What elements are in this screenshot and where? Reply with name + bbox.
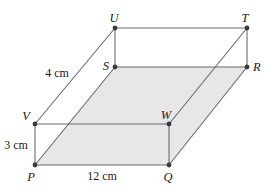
vertex-label-s: S <box>103 59 110 73</box>
vertex-dot-s <box>113 65 118 70</box>
length-label-12cm: 12 cm <box>87 169 117 183</box>
vertex-label-u: U <box>109 11 119 25</box>
slant-label-4cm: 4 cm <box>45 66 69 80</box>
vertex-label-q: Q <box>163 170 172 184</box>
vertex-dot-p <box>33 163 38 168</box>
vertex-label-r: R <box>252 60 261 74</box>
shaded-face-group <box>35 67 247 165</box>
base-parallelogram-PQRS <box>35 67 247 165</box>
height-label-3cm: 3 cm <box>4 138 28 152</box>
vertex-dot-t <box>245 26 250 31</box>
vertex-label-w: W <box>161 108 173 122</box>
vertex-dot-q <box>167 163 172 168</box>
vertex-dot-w <box>167 122 172 127</box>
geometry-figure: PQRSVWTU 12 cm3 cm4 cm <box>0 0 272 191</box>
vertex-dot-u <box>113 26 118 31</box>
vertex-label-v: V <box>22 109 31 123</box>
vertex-dot-r <box>245 65 250 70</box>
vertex-label-p: P <box>26 170 35 184</box>
vertex-label-t: T <box>242 11 250 25</box>
figure-svg: PQRSVWTU 12 cm3 cm4 cm <box>0 0 272 191</box>
vertex-dot-v <box>33 122 38 127</box>
